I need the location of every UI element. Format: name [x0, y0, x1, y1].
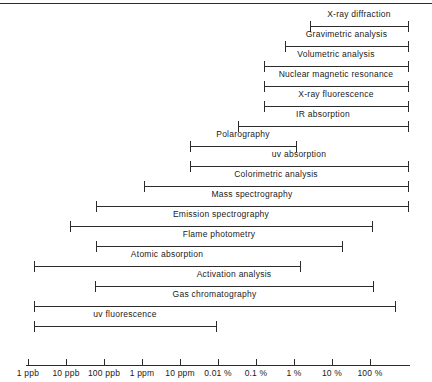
x-axis-tick-label: 0.01 % — [204, 368, 232, 379]
range-bar-line — [310, 26, 408, 27]
range-bar-label: X-ray diffraction — [327, 9, 391, 20]
range-bar-label: Colorimetric analysis — [234, 169, 318, 180]
x-axis-tick — [66, 359, 67, 366]
range-bar-line — [264, 86, 408, 87]
range-bar-label: Gravimetric analysis — [306, 29, 388, 40]
range-bar-line — [95, 286, 373, 287]
range-bar-label: Emission spectrography — [173, 209, 269, 220]
x-axis: 1 ppb10 ppb100 ppb1 ppm10 ppm0.01 %0.1 %… — [0, 358, 432, 382]
range-bar-start-cap — [34, 321, 35, 332]
range-bar-line — [238, 126, 408, 127]
x-axis-tick — [28, 359, 29, 366]
range-bar-line — [34, 326, 216, 327]
range-bar-label: IR absorption — [296, 109, 350, 120]
x-axis-tick-label: 1 ppb — [17, 368, 39, 379]
range-bar-label: Volumetric analysis — [297, 49, 375, 60]
range-bar-line — [264, 66, 408, 67]
detection-range-chart: X-ray diffractionGravimetric analysisVol… — [0, 0, 432, 382]
range-bar-line — [144, 186, 408, 187]
x-axis-tick — [104, 359, 105, 366]
x-axis-tick — [142, 359, 143, 366]
range-bar-line — [285, 46, 408, 47]
x-axis-tick — [332, 359, 333, 366]
range-bar-label: Flame photometry — [183, 229, 256, 240]
range-bar-line — [190, 166, 408, 167]
range-bar-label: Gas chromatography — [173, 289, 257, 300]
x-axis-tick — [180, 359, 181, 366]
x-axis-tick-label: 10 % — [322, 368, 342, 379]
range-bar-line — [190, 146, 296, 147]
range-bar-label: uv absorption — [272, 149, 326, 160]
range-bar-line — [96, 206, 408, 207]
range-bar-label: Polarography — [216, 129, 270, 140]
range-bar-label: Mass spectrography — [211, 189, 292, 200]
range-bar-label: Atomic absorption — [131, 249, 203, 260]
range-bar-row: uv fluorescence — [0, 308, 432, 332]
x-axis-tick-label: 10 ppb — [52, 368, 79, 379]
x-axis-tick — [218, 359, 219, 366]
range-bar-label: Nuclear magnetic resonance — [279, 69, 394, 80]
x-axis-tick — [256, 359, 257, 366]
range-bar-label: uv fluorescence — [93, 309, 156, 320]
range-bar-line — [264, 106, 408, 107]
x-axis-tick-label: 100 ppb — [88, 368, 120, 379]
range-bar-end-cap — [216, 321, 217, 332]
range-bar-line — [34, 266, 300, 267]
range-bar-line — [34, 306, 395, 307]
x-axis-tick-label: 1 ppm — [130, 368, 155, 379]
range-bar-line — [70, 226, 372, 227]
x-axis-tick-label: 1 % — [286, 368, 301, 379]
range-bar-label: X-ray fluorescence — [298, 89, 373, 100]
x-axis-tick-label: 100 % — [357, 368, 382, 379]
plot-area: X-ray diffractionGravimetric analysisVol… — [0, 8, 432, 328]
x-axis-tick-label: 0.1 % — [245, 368, 268, 379]
range-bar-line — [96, 246, 342, 247]
x-axis-tick — [370, 359, 371, 366]
page-top-rule — [0, 3, 432, 4]
x-axis-tick — [294, 359, 295, 366]
x-axis-tick-label: 10 ppm — [165, 368, 195, 379]
range-bar-label: Activation analysis — [197, 269, 272, 280]
